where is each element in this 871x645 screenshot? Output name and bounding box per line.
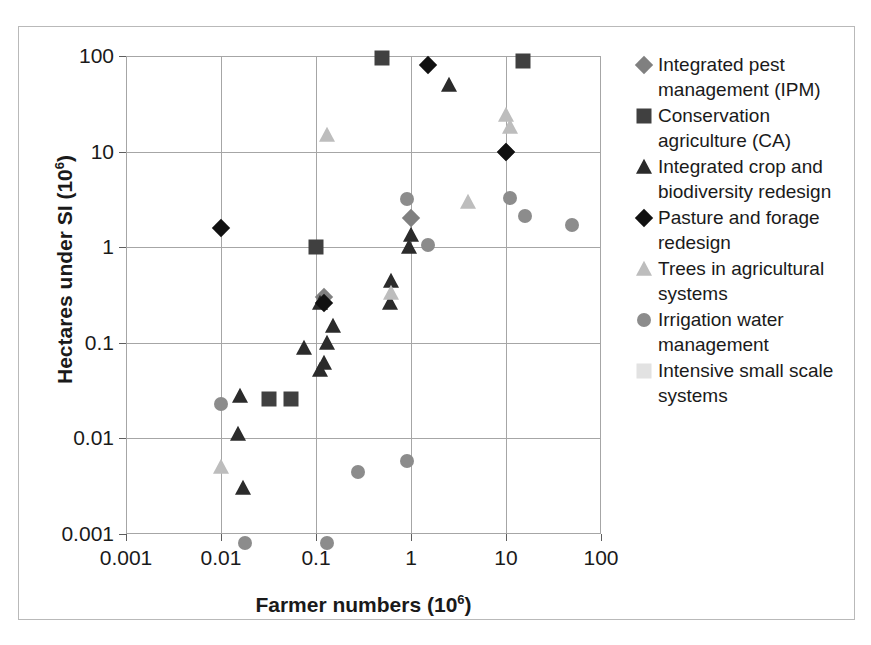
data-point (238, 536, 252, 550)
data-point (441, 77, 457, 92)
data-point (400, 454, 414, 468)
data-point (235, 480, 251, 495)
y-axis-tick (119, 56, 126, 57)
x-axis-tick-label: 0.01 (201, 546, 242, 570)
data-point (400, 192, 414, 206)
x-axis-tick-label: 100 (583, 546, 618, 570)
legend-marker-swatch (634, 307, 658, 333)
circle-marker-icon (637, 313, 651, 327)
legend-marker-swatch (634, 52, 658, 78)
diamond-marker-icon (635, 209, 653, 227)
data-point (320, 536, 334, 550)
y-axis-tick-label: 0.01 (73, 426, 114, 450)
y-axis-title-tail: ) (53, 155, 76, 162)
plot-frame (126, 56, 601, 534)
chart-legend: Integrated pest management (IPM)Conserva… (634, 52, 852, 409)
legend-item[interactable]: Conservation agriculture (CA) (634, 103, 852, 153)
square-marker-icon (637, 364, 652, 379)
data-point (284, 391, 299, 406)
data-point (383, 285, 399, 300)
legend-marker-swatch (634, 358, 658, 384)
data-point (515, 54, 530, 69)
data-point (261, 391, 276, 406)
legend-item[interactable]: Intensive small scale systems (634, 358, 852, 408)
x-axis-tick (411, 534, 412, 541)
legend-item[interactable]: Integrated crop and biodiversity redesig… (634, 154, 852, 204)
y-axis-tick (119, 343, 126, 344)
legend-marker-swatch (634, 103, 658, 129)
legend-item-label: Integrated pest management (IPM) (658, 52, 852, 102)
data-point (351, 465, 365, 479)
legend-item[interactable]: Integrated pest management (IPM) (634, 52, 852, 102)
triangle-marker-icon (636, 159, 652, 174)
data-point (309, 240, 324, 255)
gridline-horizontal (126, 247, 601, 248)
y-axis-title-base: Hectares under SI (10 (53, 169, 76, 384)
legend-item-label: Pasture and forage redesign (658, 205, 852, 255)
y-axis-title: Hectares under SI (106) (52, 60, 77, 480)
y-axis-tick (119, 152, 126, 153)
data-point (518, 209, 532, 223)
legend-item-label: Conservation agriculture (CA) (658, 103, 852, 153)
y-axis-tick-label: 100 (79, 44, 114, 68)
y-axis-tick (119, 247, 126, 248)
x-axis-title-base: Farmer numbers (10 (255, 593, 457, 616)
data-point (296, 340, 312, 355)
legend-item[interactable]: Trees in agricultural systems (634, 256, 852, 306)
y-axis-tick-label: 10 (91, 140, 114, 164)
legend-marker-swatch (634, 205, 658, 231)
figure-container: 0.0010.010.1110100 0.0010.010.1110100 Fa… (18, 26, 855, 620)
data-point (232, 387, 248, 402)
plot-area: 0.0010.010.1110100 0.0010.010.1110100 (126, 56, 601, 534)
data-point (401, 239, 417, 254)
y-axis-tick (119, 534, 126, 535)
gridline-horizontal (126, 438, 601, 439)
data-point (421, 238, 435, 252)
triangle-marker-icon (636, 261, 652, 276)
square-marker-icon (637, 109, 652, 124)
legend-item-label: Integrated crop and biodiversity redesig… (658, 154, 852, 204)
x-axis-tick-label: 10 (494, 546, 517, 570)
gridline-horizontal (126, 152, 601, 153)
data-point (213, 459, 229, 474)
x-axis-tick (221, 534, 222, 541)
x-axis-title-tail: ) (465, 593, 472, 616)
x-axis-tick (506, 534, 507, 541)
data-point (319, 127, 335, 142)
legend-item-label: Irrigation water management (658, 307, 852, 357)
data-point (503, 191, 517, 205)
x-axis-tick-label: 1 (405, 546, 417, 570)
data-point (502, 119, 518, 134)
legend-item-label: Intensive small scale systems (658, 358, 852, 408)
x-axis-title: Farmer numbers (106) (126, 592, 601, 617)
legend-item[interactable]: Irrigation water management (634, 307, 852, 357)
gridline-horizontal (126, 343, 601, 344)
x-axis-tick (316, 534, 317, 541)
y-axis-title-exponent: 6 (52, 162, 67, 169)
legend-item[interactable]: Pasture and forage redesign (634, 205, 852, 255)
y-axis-tick-label: 0.1 (85, 331, 114, 355)
legend-marker-swatch (634, 154, 658, 180)
data-point (230, 426, 246, 441)
y-axis-tick-label: 0.001 (61, 522, 114, 546)
y-axis-tick-label: 1 (102, 235, 114, 259)
data-point (312, 362, 328, 377)
data-point (375, 51, 390, 66)
legend-marker-swatch (634, 256, 658, 282)
legend-item-label: Trees in agricultural systems (658, 256, 852, 306)
data-point (325, 318, 341, 333)
x-axis-title-exponent: 6 (457, 592, 464, 607)
y-axis-tick (119, 438, 126, 439)
x-axis-tick (601, 534, 602, 541)
data-point (565, 218, 579, 232)
diamond-marker-icon (635, 56, 653, 74)
x-axis-tick (126, 534, 127, 541)
data-point (214, 397, 228, 411)
data-point (460, 193, 476, 208)
x-axis-tick-label: 0.001 (100, 546, 153, 570)
data-point (319, 335, 335, 350)
